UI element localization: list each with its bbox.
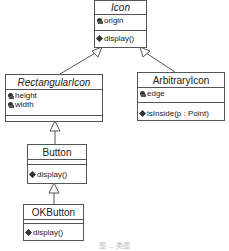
class-arbitraryicon: ArbitraryIcon edge isInside(p : Point) — [137, 72, 225, 121]
arrowhead-button — [49, 183, 59, 193]
operation-name: display() — [37, 170, 67, 179]
class-name: Button — [28, 145, 86, 160]
attribute: edge — [140, 89, 222, 98]
class-name: Icon — [95, 1, 146, 15]
operation-icon — [96, 35, 103, 42]
attribute-name: height — [15, 91, 37, 100]
attributes-section: height width — [6, 90, 102, 116]
attribute-icon — [8, 102, 14, 108]
class-name: RectangularIcon — [6, 75, 102, 90]
class-name: ArbitraryIcon — [138, 73, 224, 88]
attribute-icon — [8, 93, 14, 99]
operation: isInside(p : Point) — [140, 109, 222, 118]
class-button: Button display() — [27, 144, 87, 184]
attribute: height — [8, 91, 100, 100]
attributes-section: edge — [138, 88, 224, 103]
operations-section: display() — [28, 165, 86, 180]
operation-name: isInside(p : Point) — [147, 109, 209, 118]
operations-section: display() — [95, 31, 146, 44]
link-arbitraryicon-icon — [146, 53, 175, 72]
figure-caption: 图 ... 类图 — [0, 240, 229, 250]
class-icon: Icon origin display() — [94, 0, 147, 48]
operation: display() — [26, 228, 81, 237]
attributes-section: origin — [95, 15, 146, 31]
attribute-name: edge — [147, 89, 165, 98]
attribute-name: origin — [104, 16, 124, 25]
arrowhead-icon-left — [92, 47, 102, 57]
operation: display() — [30, 170, 84, 179]
class-name: OKButton — [24, 205, 83, 220]
attribute: width — [8, 100, 100, 109]
attribute-icon — [97, 18, 103, 24]
operation-icon — [29, 171, 36, 178]
operations-section — [6, 116, 102, 118]
attribute-name: width — [15, 100, 34, 109]
operations-section: display() — [24, 224, 83, 238]
class-rectangularicon: RectangularIcon height width — [5, 74, 103, 122]
attribute-icon — [140, 91, 146, 97]
operation-name: display() — [104, 34, 134, 43]
operation-name: display() — [33, 228, 63, 237]
operations-section: isInside(p : Point) — [138, 103, 224, 119]
operation-icon — [25, 229, 32, 236]
operation: display() — [97, 34, 144, 43]
arrowhead-rectangularicon — [50, 121, 60, 131]
class-okbutton: OKButton display() — [23, 204, 84, 241]
operation-icon — [139, 110, 146, 117]
link-rectangularicon-icon — [60, 52, 97, 74]
attribute: origin — [97, 16, 144, 25]
arrowhead-icon-right — [140, 47, 150, 57]
